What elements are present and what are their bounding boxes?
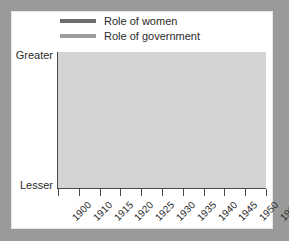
x-axis-tick xyxy=(245,189,246,196)
x-axis-tick xyxy=(204,189,205,196)
x-axis-tick xyxy=(162,189,163,196)
x-axis-tick-label: 1935 xyxy=(196,200,219,223)
x-axis-tick-label: 1950 xyxy=(258,200,281,223)
x-axis-tick-label: 1910 xyxy=(92,200,115,223)
x-axis-tick-label: 1960 xyxy=(279,200,289,223)
figure-root: Role of women Role of government Greater… xyxy=(0,0,289,241)
chart-legend: Role of women Role of government xyxy=(60,14,265,44)
x-axis-tick xyxy=(141,189,142,196)
x-axis-tick xyxy=(79,189,80,196)
legend-label-role-of-government: Role of government xyxy=(104,30,200,42)
x-axis-tick-label: 1915 xyxy=(113,200,136,223)
x-axis-tick xyxy=(224,189,225,196)
chart-card: Role of women Role of government Greater… xyxy=(12,12,272,228)
x-axis-tick xyxy=(100,189,101,196)
x-axis-tick xyxy=(266,189,267,196)
y-axis-line xyxy=(57,52,58,189)
x-axis-tick-label: 1900 xyxy=(71,200,94,223)
y-axis-label-lesser: Lesser xyxy=(20,180,53,191)
plot-area xyxy=(58,52,266,188)
x-axis-tick-label: 1930 xyxy=(175,200,198,223)
legend-item-role-of-government: Role of government xyxy=(60,29,265,43)
legend-swatch-role-of-government xyxy=(60,34,96,38)
x-axis-tick-label: 1940 xyxy=(217,200,240,223)
x-axis-tick xyxy=(120,189,121,196)
y-axis-label-greater: Greater xyxy=(16,50,53,61)
x-axis-tick-label: 1925 xyxy=(154,200,177,223)
legend-swatch-role-of-women xyxy=(60,19,96,23)
x-axis-tick xyxy=(183,189,184,196)
legend-item-role-of-women: Role of women xyxy=(60,14,265,28)
plot-frame: Greater Lesser 1900191019151920192519301… xyxy=(58,52,266,188)
x-axis-tick xyxy=(58,189,59,196)
x-axis-tick-label: 1920 xyxy=(133,200,156,223)
x-axis-tick-label: 1945 xyxy=(237,200,260,223)
legend-label-role-of-women: Role of women xyxy=(104,15,177,27)
